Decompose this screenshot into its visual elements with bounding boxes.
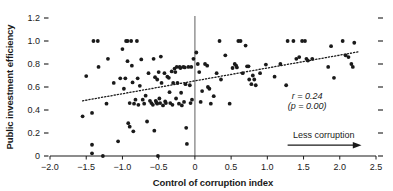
data-point — [326, 65, 330, 69]
x-tick-label-8: 2.0 — [334, 162, 347, 172]
data-point — [223, 53, 227, 57]
data-point — [151, 103, 155, 107]
data-point — [126, 39, 130, 43]
data-point — [142, 102, 146, 106]
data-point — [297, 55, 301, 59]
data-point — [352, 41, 356, 45]
data-point — [251, 74, 255, 78]
data-point — [231, 66, 235, 70]
data-point — [264, 63, 268, 67]
data-point — [152, 57, 156, 61]
data-point — [160, 81, 164, 85]
data-point — [136, 76, 140, 80]
data-point — [176, 81, 180, 85]
data-point — [247, 64, 251, 68]
data-point — [131, 81, 135, 85]
x-axis-title: Control of corruption index — [153, 177, 274, 188]
data-point — [90, 151, 94, 155]
data-point — [170, 70, 174, 74]
data-point — [250, 82, 254, 86]
y-tick-label-6: 1.2 — [27, 13, 40, 23]
x-tick-label-0: −2.0 — [41, 162, 59, 172]
data-point — [292, 39, 296, 43]
data-point — [183, 66, 187, 70]
data-point — [252, 78, 256, 82]
y-axis-title: Public investment efficiency — [4, 24, 15, 150]
data-point — [126, 59, 130, 63]
data-point — [189, 101, 193, 105]
data-point — [101, 154, 105, 158]
data-point — [351, 65, 355, 69]
data-point — [310, 57, 314, 61]
data-point — [128, 101, 132, 105]
data-point — [205, 64, 209, 68]
data-point — [131, 129, 135, 133]
data-point — [157, 70, 161, 74]
data-point — [218, 39, 222, 43]
annotation-pvalue: (p = 0.00) — [288, 101, 327, 111]
x-tick-label-4: 0 — [192, 162, 197, 172]
data-point — [129, 39, 133, 43]
data-point — [258, 71, 262, 75]
y-tick-label-4: 0.8 — [27, 59, 40, 69]
data-point — [273, 75, 277, 79]
data-point — [118, 76, 122, 80]
data-point — [196, 62, 200, 66]
data-point — [132, 102, 136, 106]
data-point — [152, 129, 156, 133]
data-point — [147, 71, 151, 75]
data-point — [179, 91, 183, 95]
data-point — [145, 120, 149, 124]
data-point — [134, 98, 138, 102]
x-tick-label-1: −1.5 — [77, 162, 95, 172]
x-tick-label-5: 0.5 — [225, 162, 238, 172]
data-point — [188, 83, 192, 87]
data-point — [90, 143, 94, 147]
data-point — [174, 97, 178, 101]
x-tick-label-3: −0.5 — [150, 162, 168, 172]
data-point — [219, 78, 223, 82]
y-tick-label-3: 0.6 — [27, 82, 40, 92]
data-point — [116, 139, 120, 143]
y-tick-label-5: 1.0 — [27, 36, 40, 46]
data-point — [97, 65, 101, 69]
data-point — [194, 51, 198, 55]
data-point — [84, 74, 88, 78]
data-point — [171, 103, 175, 107]
data-point — [244, 44, 248, 48]
data-point — [247, 78, 251, 82]
data-point — [284, 83, 288, 87]
data-point — [144, 94, 148, 98]
data-point — [306, 59, 310, 63]
data-point — [164, 101, 168, 105]
data-point — [167, 76, 171, 80]
data-point — [121, 47, 125, 51]
data-point — [303, 39, 307, 43]
data-point — [329, 44, 333, 48]
data-point — [128, 125, 132, 129]
data-point — [215, 71, 219, 75]
data-point — [171, 81, 175, 85]
data-point — [235, 66, 239, 70]
data-point — [341, 39, 345, 43]
data-point — [332, 76, 336, 80]
data-point — [185, 142, 189, 146]
data-point — [123, 76, 127, 80]
y-tick-label-0: 0 — [35, 151, 40, 161]
data-point — [155, 78, 159, 82]
data-point — [157, 97, 161, 101]
data-point — [347, 55, 351, 59]
data-point — [184, 82, 188, 86]
chart-figure: −2.0−1.5−1.0−0.500.51.01.52.02.500.20.40… — [0, 0, 393, 191]
data-point — [173, 70, 177, 74]
x-tick-label-2: −1.0 — [114, 162, 132, 172]
data-point — [197, 70, 201, 74]
data-point — [184, 126, 188, 130]
data-point — [168, 90, 172, 94]
data-point — [212, 94, 216, 98]
data-point — [209, 102, 213, 106]
data-point — [156, 154, 160, 158]
data-point — [241, 71, 245, 75]
data-point — [189, 65, 193, 69]
data-point — [126, 121, 130, 125]
